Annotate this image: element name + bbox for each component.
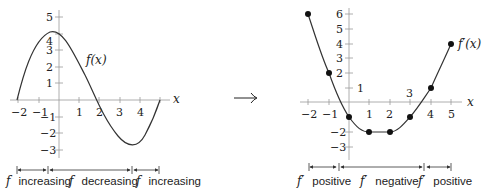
right-x-tick: 5 (448, 108, 455, 121)
right-x-axis-label: x (467, 95, 474, 109)
right-x-tick: 2 (386, 108, 393, 121)
right-x-tick: −1 (322, 108, 338, 121)
interval-f-increasing-1: f increasing (5, 170, 71, 189)
f-curve-label: f(x) (85, 53, 107, 67)
right-y-tick: 4 (336, 38, 343, 51)
interval-f-increasing-2: f increasing (135, 170, 201, 189)
right-y-tick: 6 (336, 8, 343, 21)
right-y-tick: −3 (330, 141, 346, 154)
left-x-tick: 4 (137, 106, 144, 119)
right-y-tick: 2 (336, 67, 343, 80)
left-y-tick: 1 (46, 77, 53, 90)
right-y-tick: 3 (336, 52, 343, 65)
transform-arrow (234, 93, 257, 103)
left-y-tick: 3 (46, 44, 53, 57)
left-x-tick: −2 (11, 106, 27, 119)
right-x-tick: 1 (366, 108, 373, 121)
right-x-tick: −2 (301, 108, 317, 121)
left-y-tick: 2 (46, 61, 53, 74)
interval-f-prime-positive-1: f′ positive (296, 170, 351, 189)
left-y-tick: −3 (40, 144, 56, 157)
left-x-axis-label: x (173, 92, 180, 106)
right-y-tick: 1 (357, 82, 364, 95)
interval-f-decreasing: f decreasing (68, 170, 138, 189)
right-y-tick: 5 (336, 23, 343, 36)
right-x-tick: 3 (406, 87, 413, 100)
left-y-tick: −2 (40, 127, 56, 140)
right-plot: −2 −1 1 2 3 4 5 x 6 5 4 3 2 1 −2 −3 f′(x… (296, 8, 482, 189)
right-x-tick: 4 (427, 108, 434, 121)
left-x-tick: 3 (116, 106, 123, 119)
left-x-tick: 1 (76, 106, 83, 119)
right-y-tick: −2 (330, 126, 346, 139)
left-plot: −2 −1 1 2 3 4 x 5 4 3 2 1 −1 −2 −3 f(x) … (5, 10, 201, 189)
f-prime-curve-label: f′(x) (457, 37, 482, 51)
diagram-canvas: −2 −1 1 2 3 4 x 5 4 3 2 1 −1 −2 −3 f(x) … (0, 0, 486, 195)
left-y-tick: 5 (46, 11, 53, 24)
interval-f-prime-negative: f′ negative (359, 170, 419, 189)
left-x-tick: 2 (96, 106, 103, 119)
interval-f-prime-positive-2: f′ positive (417, 170, 472, 189)
f-curve (17, 32, 160, 145)
left-y-tick: −1 (40, 111, 56, 124)
